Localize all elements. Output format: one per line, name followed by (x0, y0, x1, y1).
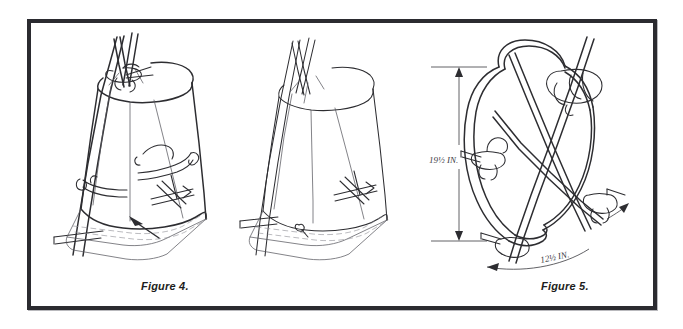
figure-4-poles (73, 33, 138, 256)
figure-4-lower-ground-plane (66, 209, 206, 260)
figure-6-right-foot-lashing (583, 189, 625, 223)
figure-4-pointer-arrow (129, 216, 159, 238)
figure-4-dashed-seam (73, 213, 207, 240)
figure-4-drawing (31, 23, 241, 278)
figure-4-panel: Figure 4. (31, 23, 241, 314)
base-dimension-label: 12½ IN. (539, 249, 570, 265)
height-dimension-label: 19½ IN. (429, 155, 458, 165)
figure-4-peg-detail (151, 175, 194, 208)
figure-4-rear-pole-foot (54, 231, 103, 244)
figure-6-drawing: 19½ IN. 12½ IN. (421, 23, 661, 278)
figure-4-caption: Figure 4. (141, 280, 189, 292)
illustration-plate: Figure 4. (0, 0, 683, 329)
figure-5-drawing (236, 23, 431, 278)
figure-6-height-dimension: 19½ IN. (429, 67, 487, 241)
figure-5-peg-detail (334, 171, 377, 204)
figure-5-panel: Figure 5. (236, 23, 431, 314)
figure-6-panel: 19½ IN. 12½ IN. Figure 6. (421, 23, 661, 314)
figure-4-tarp-folds (93, 69, 183, 221)
figure-5-small-loop (295, 224, 308, 237)
figure-5-poles (256, 38, 315, 256)
figure-5-tarp-body (263, 67, 387, 231)
figure-5-tarp-folds (274, 76, 364, 223)
plate-border-frame: Figure 4. (27, 19, 657, 310)
plate-canvas: Figure 4. (31, 23, 653, 306)
figure-4-tarp-body (81, 62, 206, 229)
